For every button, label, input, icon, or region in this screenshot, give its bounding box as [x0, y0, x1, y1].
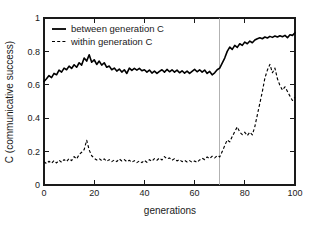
- y-tick-label: 0.8: [27, 47, 40, 57]
- chart-figure: 020406080100 00.20.40.60.81 between gene…: [0, 0, 309, 225]
- legend-label-2: within generation C: [70, 36, 152, 47]
- y-tick-label: 0.4: [27, 113, 40, 123]
- series-line-2: [44, 64, 295, 163]
- y-axis-title: C (communicative success): [4, 41, 15, 163]
- x-axis-title: generations: [144, 205, 196, 216]
- x-tick-label: 20: [89, 188, 99, 198]
- chart-series: [44, 33, 295, 164]
- x-tick-label: 40: [139, 188, 149, 198]
- chart-legend: between generation Cwithin generation C: [52, 23, 164, 47]
- y-tick-label: 0.6: [27, 80, 40, 90]
- chart-canvas: 020406080100 00.20.40.60.81 between gene…: [0, 0, 309, 225]
- y-tick-label: 1: [35, 13, 40, 23]
- x-tick-label: 100: [287, 188, 302, 198]
- y-tick-label: 0.2: [27, 147, 40, 157]
- x-tick-label: 80: [240, 188, 250, 198]
- y-tick-label: 0: [35, 180, 40, 190]
- x-tick-label: 0: [41, 188, 46, 198]
- legend-label-1: between generation C: [71, 23, 164, 34]
- x-tick-label: 60: [190, 188, 200, 198]
